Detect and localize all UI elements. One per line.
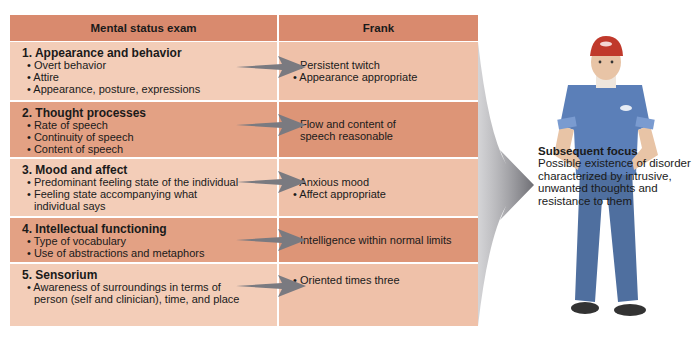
exam-item: • Appearance, posture, expressions — [22, 84, 277, 96]
finding-item: • Affect appropriate — [293, 188, 478, 200]
finding-item: • Flow and content of speech reasonable — [293, 118, 405, 142]
finding-cell: • Flow and content of speech reasonable — [279, 102, 478, 157]
finding-item: • Persistent twitch — [293, 59, 478, 71]
right-arrow-icon — [236, 56, 306, 78]
exam-item: • Content of speech — [22, 144, 277, 156]
finding-item: • Anxious mood — [293, 176, 478, 188]
finding-cell: • Anxious mood • Affect appropriate — [279, 159, 478, 216]
finding-cell: • Intelligence within normal limits — [279, 218, 478, 262]
focus-title: Subsequent focus — [538, 145, 696, 157]
finding-cell: • Persistent twitch • Appearance appropr… — [279, 42, 478, 100]
exam-item: • Awareness of surroundings in terms of … — [22, 282, 249, 306]
finding-item: • Intelligence within normal limits — [293, 234, 478, 246]
right-arrow-icon — [236, 171, 306, 193]
exam-item: • Feeling state accompanying what indivi… — [22, 189, 214, 213]
right-arrow-icon — [236, 114, 306, 136]
column-header-exam: Mental status exam — [10, 15, 277, 41]
finding-item: • Appearance appropriate — [293, 71, 478, 83]
subsequent-focus: Subsequent focus Possible existence of d… — [538, 145, 696, 207]
right-arrow-icon — [236, 229, 306, 251]
right-arrow-icon — [236, 275, 306, 297]
finding-cell: • Oriented times three — [279, 264, 478, 326]
curved-arrow-icon — [478, 42, 540, 326]
focus-body: Possible existence of disorder character… — [538, 157, 696, 207]
column-header-frank: Frank — [279, 15, 478, 41]
finding-item: • Oriented times three — [293, 274, 478, 286]
